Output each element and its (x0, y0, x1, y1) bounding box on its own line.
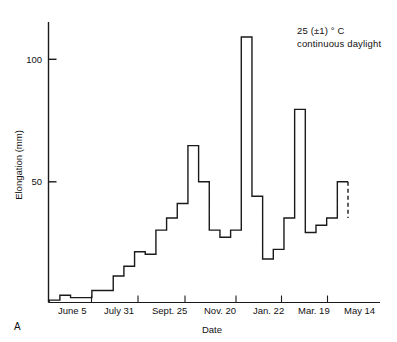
x-tick-label-jan-22: Jan. 22 (253, 305, 284, 316)
x-tick-label-mar-19: Mar. 19 (298, 305, 330, 316)
y-axis-title: Elongation (mm) (13, 130, 24, 200)
x-axis-title: Date (202, 324, 222, 335)
x-tick-label-june-5: June 5 (58, 305, 87, 316)
data-step-line (49, 37, 348, 303)
panel-label-a: A (14, 321, 21, 332)
x-tick-label-sept-25: Sept. 25 (152, 305, 187, 316)
x-tick-label-may-14: May 14 (344, 305, 375, 316)
annotation-temperature: 25 (±1) ° C (297, 24, 345, 37)
x-tick-label-july-31: July 31 (104, 305, 134, 316)
y-tick-label-50: 50 (31, 176, 42, 187)
y-tick-label-100: 100 (26, 54, 42, 65)
figure-panel-a: 50 100 June 5 July 31 Sept. 25 Nov. 20 J… (0, 0, 397, 342)
annotation-daylight: continuous daylight (297, 37, 381, 50)
elongation-step-chart: 50 100 June 5 July 31 Sept. 25 Nov. 20 J… (0, 0, 397, 342)
x-tick-label-nov-20: Nov. 20 (204, 305, 236, 316)
